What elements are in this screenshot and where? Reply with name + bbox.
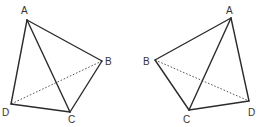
edge-AC xyxy=(189,18,231,110)
vertex-label-D: D xyxy=(248,107,255,118)
edge-CD xyxy=(189,101,249,110)
vertex-label-C: C xyxy=(68,114,75,125)
vertex-label-D: D xyxy=(2,107,9,118)
vertex-label-B: B xyxy=(105,56,112,67)
right-tetrahedron: A B C D xyxy=(143,5,255,125)
edge-AD xyxy=(11,20,27,104)
edge-AB xyxy=(27,20,102,61)
edge-AD xyxy=(231,18,249,101)
vertex-label-A: A xyxy=(21,5,28,16)
vertex-label-C: C xyxy=(183,114,190,125)
edge-AC xyxy=(27,20,70,112)
tetrahedron-diagram: A B C D A B C D xyxy=(0,0,258,127)
vertex-label-B: B xyxy=(143,56,150,67)
left-tetrahedron: A B C D xyxy=(2,5,112,125)
vertex-label-A: A xyxy=(226,5,233,16)
edge-CD xyxy=(11,104,70,112)
edge-AB xyxy=(155,18,231,60)
diagram-svg: A B C D A B C D xyxy=(0,0,258,127)
